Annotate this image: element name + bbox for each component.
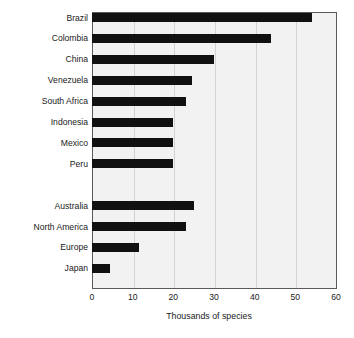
x-tick-label: 30 <box>209 292 219 302</box>
x-tick-label: 10 <box>128 292 138 302</box>
bar <box>92 118 173 127</box>
x-tick-label: 40 <box>250 292 260 302</box>
category-label: China <box>0 55 88 64</box>
category-label: South Africa <box>0 97 88 106</box>
bar <box>92 159 173 168</box>
bar <box>92 55 214 64</box>
bar <box>92 13 312 22</box>
x-tick-label: 50 <box>291 292 301 302</box>
category-label: Australia <box>0 202 88 211</box>
bar-chart: BrazilColombiaChinaVenezuelaSouth Africa… <box>0 0 354 338</box>
category-label: Colombia <box>0 34 88 43</box>
category-label: Peru <box>0 160 88 169</box>
bars-layer <box>92 12 337 289</box>
bar <box>92 34 271 43</box>
x-axis-title-text: Thousands of species <box>166 311 252 321</box>
x-axis-tick-labels: 0102030405060 <box>92 292 337 306</box>
category-label: Europe <box>0 243 88 252</box>
x-tick-label: 0 <box>90 292 95 302</box>
category-axis-labels: BrazilColombiaChinaVenezuelaSouth Africa… <box>0 12 88 289</box>
category-label: Venezuela <box>0 76 88 85</box>
x-axis-title: Thousands of species <box>0 311 354 321</box>
x-tick-label: 60 <box>331 292 341 302</box>
bar <box>92 243 139 252</box>
bar <box>92 97 186 106</box>
category-label: Japan <box>0 264 88 273</box>
x-tick-label: 20 <box>169 292 179 302</box>
bar <box>92 201 194 210</box>
bar <box>92 76 192 85</box>
bar <box>92 264 110 273</box>
bar <box>92 222 186 231</box>
category-label: Mexico <box>0 139 88 148</box>
bar <box>92 138 173 147</box>
category-label: North America <box>0 223 88 232</box>
category-label: Indonesia <box>0 118 88 127</box>
category-label: Brazil <box>0 14 88 23</box>
